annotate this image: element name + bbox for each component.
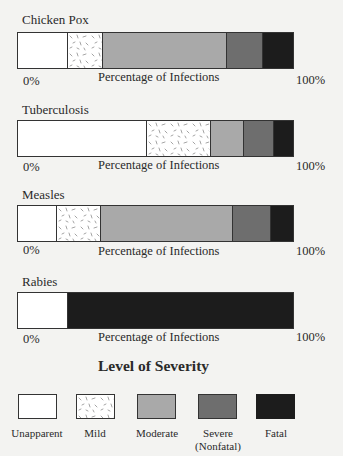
- segment-unapparent: [18, 33, 68, 68]
- segment-fatal: [263, 33, 293, 68]
- segment-unapparent: [18, 121, 147, 156]
- axis-max-label: 100%: [296, 244, 325, 259]
- legend-swatch-severe: [198, 394, 237, 419]
- chart-title-chicken-pox: Chicken Pox: [22, 12, 89, 28]
- axis-title: Percentage of Infections: [98, 70, 219, 85]
- axis-max-label: 100%: [296, 330, 325, 345]
- legend-swatch-unapparent: [18, 394, 57, 419]
- axis-title: Percentage of Infections: [98, 158, 219, 173]
- legend-swatch-fatal: [256, 394, 295, 419]
- bar-rabies: [17, 292, 294, 329]
- segment-fatal: [274, 121, 293, 156]
- segment-unapparent: [18, 293, 68, 328]
- axis-min-label: 0%: [23, 160, 40, 175]
- segment-unapparent: [18, 206, 57, 241]
- axis-max-label: 100%: [296, 159, 325, 174]
- axis-max-label: 100%: [296, 73, 325, 88]
- segment-fatal: [68, 293, 294, 328]
- legend-title: Level of Severity: [98, 357, 209, 375]
- legend-swatch-moderate: [137, 394, 176, 419]
- bar-tuberculosis: [17, 120, 294, 157]
- segment-moderate: [211, 121, 244, 156]
- chart-title-tuberculosis: Tuberculosis: [22, 102, 89, 118]
- axis-title: Percentage of Infections: [98, 244, 219, 259]
- axis-min-label: 0%: [23, 332, 40, 347]
- segment-mild: [147, 121, 210, 156]
- segment-moderate: [103, 33, 227, 68]
- legend-label-moderate: Moderate: [122, 427, 192, 440]
- segment-severe: [233, 206, 272, 241]
- chart-title-measles: Measles: [22, 187, 65, 203]
- legend-label-mild: Mild: [60, 427, 130, 440]
- legend-label-fatal: Fatal: [241, 427, 311, 440]
- bar-measles: [17, 205, 294, 242]
- axis-min-label: 0%: [23, 243, 40, 258]
- segment-fatal: [271, 206, 293, 241]
- segment-mild: [68, 33, 104, 68]
- chart-title-rabies: Rabies: [22, 274, 57, 290]
- segment-severe: [244, 121, 274, 156]
- segment-moderate: [101, 206, 233, 241]
- bar-chicken-pox: [17, 32, 294, 69]
- legend-swatch-mild: [76, 394, 115, 419]
- segment-mild: [57, 206, 101, 241]
- segment-severe: [227, 33, 263, 68]
- axis-title: Percentage of Infections: [98, 330, 219, 345]
- axis-min-label: 0%: [23, 74, 40, 89]
